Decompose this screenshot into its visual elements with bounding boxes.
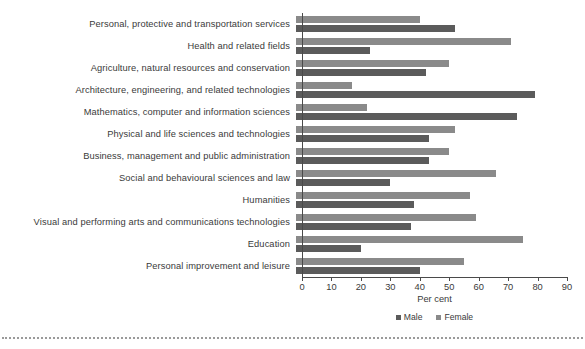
bar-male	[296, 179, 390, 186]
bar-female	[296, 258, 464, 265]
x-axis-tick-label: 30	[385, 282, 395, 292]
category-label: Agriculture, natural resources and conse…	[0, 63, 296, 73]
x-axis-tick-label: 50	[444, 282, 454, 292]
bar-group	[296, 123, 585, 145]
category-row: Mathematics, computer and information sc…	[0, 101, 585, 123]
category-label: Personal improvement and leisure	[0, 261, 296, 271]
x-axis-tick	[420, 277, 421, 281]
category-row: Physical and life sciences and technolog…	[0, 123, 585, 145]
bar-group	[296, 79, 585, 101]
x-axis-title: Per cent	[302, 294, 567, 304]
category-label: Humanities	[0, 195, 296, 205]
male-swatch-icon	[396, 315, 401, 320]
bottom-dotted-divider	[2, 337, 583, 339]
category-row: Personal, protective and transportation …	[0, 13, 585, 35]
bar-female	[296, 38, 511, 45]
category-row: Business, management and public administ…	[0, 145, 585, 167]
x-axis-tick	[567, 277, 568, 281]
bar-female	[296, 60, 449, 67]
legend-item-female: Female	[436, 312, 473, 322]
category-label: Education	[0, 239, 296, 249]
x-axis-tick	[361, 277, 362, 281]
category-label: Physical and life sciences and technolog…	[0, 129, 296, 139]
x-axis-tick	[449, 277, 450, 281]
category-row: Personal improvement and leisure	[0, 255, 585, 277]
bar-female	[296, 148, 449, 155]
category-label: Business, management and public administ…	[0, 151, 296, 161]
x-axis-tick-label: 40	[415, 282, 425, 292]
bar-male	[296, 47, 370, 54]
bar-female	[296, 104, 367, 111]
x-axis-tick-label: 0	[299, 282, 304, 292]
bar-female	[296, 170, 496, 177]
category-label: Personal, protective and transportation …	[0, 19, 296, 29]
x-axis-tick-label: 20	[356, 282, 366, 292]
bar-group	[296, 167, 585, 189]
bar-male	[296, 25, 455, 32]
x-axis-tick-label: 70	[503, 282, 513, 292]
bar-group	[296, 101, 585, 123]
bar-group	[296, 211, 585, 233]
category-label: Social and behavioural sciences and law	[0, 173, 296, 183]
bar-male	[296, 201, 414, 208]
bar-male	[296, 157, 429, 164]
plot-area: Personal, protective and transportation …	[0, 13, 585, 277]
bar-male	[296, 135, 429, 142]
legend-label-male: Male	[404, 312, 423, 322]
bar-group	[296, 233, 585, 255]
bar-female	[296, 16, 420, 23]
bar-group	[296, 145, 585, 167]
x-axis-tick	[331, 277, 332, 281]
legend-item-male: Male	[396, 312, 423, 322]
bar-male	[296, 69, 426, 76]
bar-male	[296, 245, 361, 252]
legend-label-female: Female	[444, 312, 473, 322]
y-axis-line	[302, 13, 303, 277]
bar-female	[296, 214, 476, 221]
category-label: Visual and performing arts and communica…	[0, 217, 296, 227]
bar-group	[296, 189, 585, 211]
bar-male	[296, 223, 411, 230]
chart-legend: Male Female	[302, 312, 567, 322]
category-label: Health and related fields	[0, 41, 296, 51]
bar-group	[296, 255, 585, 277]
x-axis-tick-label: 80	[532, 282, 542, 292]
x-axis-tick	[479, 277, 480, 281]
x-axis-tick-label: 60	[473, 282, 483, 292]
bar-male	[296, 267, 420, 274]
category-row: Education	[0, 233, 585, 255]
category-row: Social and behavioural sciences and law	[0, 167, 585, 189]
x-axis-line	[302, 277, 567, 278]
category-row: Humanities	[0, 189, 585, 211]
category-row: Health and related fields	[0, 35, 585, 57]
x-axis-tick	[508, 277, 509, 281]
x-axis-tick-label: 90	[562, 282, 572, 292]
bar-male	[296, 91, 535, 98]
bar-male	[296, 113, 517, 120]
bar-female	[296, 126, 455, 133]
bar-group	[296, 57, 585, 79]
bar-female	[296, 236, 523, 243]
bar-female	[296, 192, 470, 199]
bar-group	[296, 35, 585, 57]
category-label: Mathematics, computer and information sc…	[0, 107, 296, 117]
category-label: Architecture, engineering, and related t…	[0, 85, 296, 95]
x-axis-tick	[538, 277, 539, 281]
category-row: Agriculture, natural resources and conse…	[0, 57, 585, 79]
female-swatch-icon	[436, 315, 441, 320]
category-rows: Personal, protective and transportation …	[0, 13, 585, 277]
x-axis-tick-label: 10	[326, 282, 336, 292]
bar-group	[296, 13, 585, 35]
x-axis-tick	[390, 277, 391, 281]
bar-chart: Personal, protective and transportation …	[0, 0, 585, 349]
x-axis-tick	[302, 277, 303, 281]
bar-female	[296, 82, 352, 89]
category-row: Visual and performing arts and communica…	[0, 211, 585, 233]
category-row: Architecture, engineering, and related t…	[0, 79, 585, 101]
